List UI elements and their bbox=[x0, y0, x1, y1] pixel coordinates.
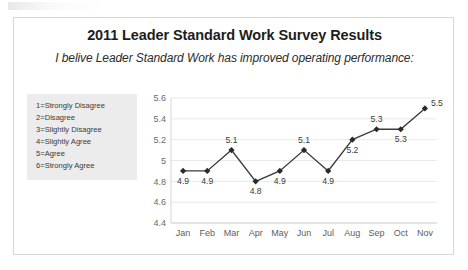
y-axis-tick-labels: 4.44.64.855.25.45.6 bbox=[153, 94, 166, 228]
data-point-label: 5.3 bbox=[395, 134, 407, 144]
legend-item: 2=Disagree bbox=[36, 112, 130, 124]
data-point-label: 4.9 bbox=[322, 176, 334, 186]
data-point-label: 5.1 bbox=[225, 135, 237, 145]
chart-card: 2011 Leader Standard Work Survey Results… bbox=[13, 17, 454, 255]
y-tick-label: 4.8 bbox=[153, 177, 166, 187]
y-tick-label: 5.6 bbox=[153, 94, 166, 103]
data-point-marker bbox=[373, 126, 379, 132]
legend-item: 6=Strongly Agree bbox=[36, 160, 130, 172]
data-point-label: 4.9 bbox=[274, 176, 286, 186]
x-tick-label: Apr bbox=[249, 228, 263, 238]
x-tick-label: Jun bbox=[297, 228, 312, 238]
x-tick-label: Oct bbox=[394, 228, 409, 238]
x-tick-label: May bbox=[271, 228, 289, 238]
y-tick-label: 5.2 bbox=[153, 135, 166, 145]
data-point-marker bbox=[180, 168, 186, 174]
x-tick-label: Feb bbox=[200, 228, 216, 238]
data-point-label: 5.3 bbox=[371, 114, 383, 124]
legend-item: 1=Strongly Disagree bbox=[36, 100, 130, 112]
y-tick-label: 5.4 bbox=[153, 114, 166, 124]
legend-item: 4=Slightly Agree bbox=[36, 136, 130, 148]
x-tick-label: Jan bbox=[176, 228, 191, 238]
data-point-label: 4.8 bbox=[250, 186, 262, 196]
gridlines bbox=[171, 98, 437, 223]
data-point-label: 5.1 bbox=[298, 135, 310, 145]
x-tick-label: Nov bbox=[417, 228, 434, 238]
y-tick-label: 4.4 bbox=[153, 218, 166, 228]
legend-item: 3=Slightly Disagree bbox=[36, 124, 130, 136]
x-axis-tick-labels: JanFebMarAprMayJunJulAugSepOctNov bbox=[176, 228, 434, 238]
scan-artifact bbox=[8, 2, 103, 10]
y-tick-label: 4.6 bbox=[153, 197, 166, 207]
y-tick-label: 5 bbox=[161, 156, 166, 166]
data-point-label: 5.5 bbox=[431, 98, 443, 108]
chart-subtitle: I belive Leader Standard Work has improv… bbox=[14, 51, 455, 65]
data-point-label: 5.2 bbox=[346, 145, 358, 155]
x-tick-label: Sep bbox=[369, 228, 385, 238]
data-point-label: 4.9 bbox=[201, 176, 213, 186]
legend-key-box: 1=Strongly Disagree 2=Disagree 3=Slightl… bbox=[27, 94, 137, 180]
chart-title: 2011 Leader Standard Work Survey Results bbox=[14, 27, 455, 43]
x-tick-label: Jul bbox=[322, 228, 334, 238]
line-chart-svg: 4.44.64.855.25.45.6 JanFebMarAprMayJunJu… bbox=[145, 94, 445, 249]
legend-item: 5=Agree bbox=[36, 148, 130, 160]
plot-area: 4.44.64.855.25.45.6 JanFebMarAprMayJunJu… bbox=[145, 94, 445, 249]
x-tick-label: Mar bbox=[224, 228, 240, 238]
data-point-label: 4.9 bbox=[177, 176, 189, 186]
x-tick-label: Aug bbox=[344, 228, 360, 238]
